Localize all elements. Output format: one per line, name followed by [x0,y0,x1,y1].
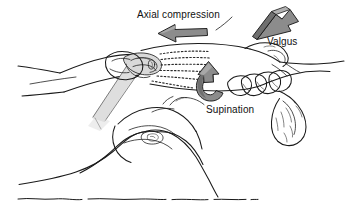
palm-crease-b [281,112,284,127]
patient-arm-left-taper-lower [22,92,64,96]
palm-crease-c [276,118,278,131]
patient-arm-crease [30,77,76,84]
finger-1 [228,76,252,96]
axial-compression-arrow [158,25,208,43]
trapezius-line [182,97,204,104]
neck-crease [176,98,187,101]
chest-contour-mid [196,131,202,149]
palm-crease-a [286,108,292,122]
clinician-forearm-group [141,44,344,91]
examination-table-line-3 [172,199,208,200]
examination-table-line-2 [88,199,166,200]
finger-crease-3 [271,80,278,87]
clinician-wrist-crease-2 [285,63,300,73]
examination-table-line [18,199,82,200]
dotted-fan-line-6 [152,81,193,88]
axial-compression-arrow-shape [158,25,208,43]
dotted-fan-line-3 [161,64,211,65]
illustration-figure: Axial compression Valgus Supination [0,0,345,220]
torso-upper-ridge [80,132,147,173]
dotted-fan-line-1 [160,51,208,54]
clinician-arm-right-lower [268,71,330,82]
fingertip-detail-a [290,126,293,137]
thumb-contour [283,101,296,135]
torso-outer-contour [19,131,158,184]
axial-compression-label: Axial compression [137,9,220,20]
patient-arm-left-taper [18,66,60,73]
clinician-forearm-top [141,44,250,51]
fingertip-detail-b [284,133,287,142]
supination-arrow [196,62,223,102]
clinician-gripping-hand-group [228,43,306,146]
chest-areola-detail [141,131,163,144]
bone-shading-group [92,53,162,122]
chest-fold-line-b [124,139,172,149]
anatomical-illustration-canvas: Axial compression Valgus Supination [0,0,345,220]
palm-contour-inner [271,99,279,142]
dotted-fan-line-2 [161,58,210,60]
shoulder-upper-arc [157,132,203,165]
valgus-arrow [253,7,299,40]
valgus-label: Valgus [267,36,297,47]
clinician-arm-right-upper [280,61,344,64]
dotted-fan-line-5 [157,76,204,80]
chest-contour-upper [118,108,196,132]
supination-label: Supination [206,104,254,115]
clinician-forearm-top-2 [250,49,280,62]
